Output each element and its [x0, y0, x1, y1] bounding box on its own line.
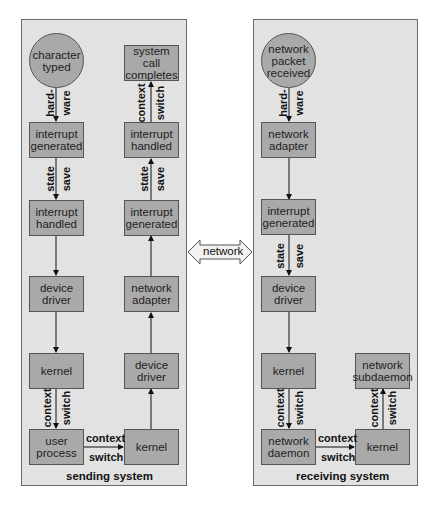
sending-hw-label-2: ware	[60, 83, 72, 123]
receiving-start-circle: network packet received	[261, 33, 316, 88]
receiving-hcs-label-2: switch	[321, 451, 355, 463]
sending-hw-label-1: hard-	[44, 83, 56, 123]
receiving-cs-label-1: context	[274, 388, 286, 428]
receiving-left-box-2: interrupt generated	[261, 199, 316, 235]
sending-right-box-4: network adapter	[124, 276, 179, 312]
receiving-left-box-5: network daemon	[261, 429, 316, 465]
sending-ss-label-1: state	[44, 159, 56, 199]
sending-hcs-label-1: context	[86, 432, 125, 444]
sending-rcs-label-1: context	[135, 83, 147, 123]
receiving-left-box-1: network adapter	[261, 122, 316, 158]
receiving-right-box-1: network subdaemon	[355, 353, 410, 389]
receiving-hw-label-1: hard-	[277, 83, 289, 123]
sending-left-box-4: kernel	[29, 353, 84, 389]
sending-left-box-1: interrupt generated	[29, 122, 84, 158]
sending-ss-label-2: save	[60, 159, 72, 199]
receiving-rcs-label-2: switch	[386, 388, 398, 428]
sending-rcs-label-2: switch	[154, 83, 166, 123]
receiving-right-box-2: kernel	[355, 429, 410, 465]
receiving-cs-label-2: switch	[293, 388, 305, 428]
sending-system-caption: sending system	[66, 470, 153, 482]
receiving-hcs-label-1: context	[318, 432, 357, 444]
sending-left-box-5: user process	[29, 429, 84, 465]
sending-right-box-1: system call completes	[124, 45, 179, 81]
sending-right-box-3: interrupt generated	[124, 200, 179, 236]
sending-left-box-2: interrupt handled	[29, 200, 84, 236]
receiving-hw-label-2: ware	[293, 83, 305, 123]
sending-left-box-3: device driver	[29, 276, 84, 312]
sending-right-box-5: device driver	[124, 353, 179, 389]
receiving-left-box-4: kernel	[261, 353, 316, 389]
receiving-system-caption: receiving system	[296, 470, 389, 482]
receiving-rcs-label-1: context	[368, 388, 380, 428]
sending-cs-label-2: switch	[60, 388, 72, 428]
receiving-ss-label-2: save	[293, 236, 305, 276]
network-label: network	[203, 245, 243, 257]
sending-hcs-label-2: switch	[89, 451, 123, 463]
sending-right-box-6: kernel	[124, 429, 179, 465]
sending-rss-label-2: save	[154, 159, 166, 199]
sending-right-box-2: interrupt handled	[124, 122, 179, 158]
sending-cs-label-1: context	[41, 388, 53, 428]
receiving-ss-label-1: state	[274, 236, 286, 276]
sending-rss-label-1: state	[138, 159, 150, 199]
sending-start-circle: character typed	[29, 33, 84, 88]
receiving-left-box-3: device driver	[261, 276, 316, 312]
